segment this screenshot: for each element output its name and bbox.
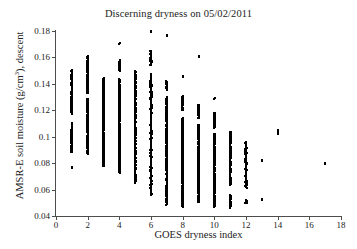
data-point [214, 97, 216, 99]
data-point [277, 132, 279, 134]
data-point [71, 166, 73, 168]
data-point [166, 34, 168, 36]
y-axis-tick-label: 0.04 [34, 212, 50, 221]
data-point [245, 199, 247, 201]
data-point [277, 129, 279, 131]
y-axis-title-suffix: ), descent [14, 32, 25, 72]
y-axis-tick-label: 0.12 [34, 106, 50, 115]
data-point [118, 78, 120, 80]
data-point [119, 42, 121, 44]
data-point [324, 162, 326, 164]
x-axis-title: GOES dryness index [56, 229, 341, 240]
y-axis-tick-mark [52, 57, 56, 58]
data-point [149, 50, 151, 52]
y-axis-tick-label: 0.06 [34, 185, 50, 194]
data-point [261, 159, 263, 161]
data-point [103, 77, 105, 79]
data-point [87, 55, 89, 57]
y-axis-tick-mark [52, 31, 56, 32]
data-point [229, 131, 231, 133]
y-axis-title-exponent: 3 [13, 72, 21, 76]
data-point [182, 117, 184, 119]
y-axis-title-prefix: AMSR-E soil moisture (g/cm [14, 75, 25, 199]
y-axis-tick-label: 0.18 [34, 27, 50, 36]
y-axis-tick-label: 0.14 [34, 79, 50, 88]
y-axis-tick-label: 0.08 [34, 159, 50, 168]
data-point [71, 69, 73, 71]
data-point [165, 80, 167, 82]
y-axis-tick-label: 0.16 [34, 53, 50, 62]
chart-title: Discerning dryness on 05/02/2011 [0, 8, 357, 19]
data-point [198, 104, 200, 106]
y-axis-tick-mark [52, 137, 56, 138]
data-point [182, 95, 184, 97]
data-point [198, 55, 200, 57]
data-point [214, 133, 216, 135]
data-point [87, 98, 89, 100]
data-point [182, 75, 184, 77]
y-axis-tick-label: 0.1 [39, 132, 50, 141]
data-point [245, 141, 247, 143]
x-axis-line [55, 216, 342, 217]
scatter-chart-figure: Discerning dryness on 05/02/2011 AMSR-E … [0, 0, 357, 249]
y-axis-tick-mark [52, 110, 56, 111]
y-axis-tick-mark [52, 84, 56, 85]
data-point [166, 96, 168, 98]
data-point [261, 198, 263, 200]
plot-area: 0.040.060.080.10.120.140.160.18024681012… [56, 31, 341, 216]
data-point [119, 59, 121, 61]
y-axis-tick-mark [52, 163, 56, 164]
data-point [150, 30, 152, 32]
y-axis-title: AMSR-E soil moisture (g/cm3), descent [14, 18, 28, 213]
data-point [229, 194, 231, 196]
data-point [198, 124, 200, 126]
data-point [214, 112, 216, 114]
data-point [134, 70, 136, 72]
y-axis-tick-mark [52, 190, 56, 191]
data-point [71, 122, 73, 124]
data-point [150, 73, 152, 75]
